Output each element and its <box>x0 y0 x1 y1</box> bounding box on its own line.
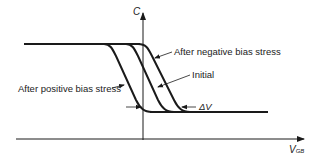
x-axis-label-main: V <box>289 144 296 155</box>
label-initial: Initial <box>192 70 214 80</box>
label-positive-stress: After positive bias stress <box>18 84 121 94</box>
x-axis-label-sub: GB <box>296 148 305 154</box>
x-axis-label: VGB <box>289 145 304 155</box>
delta-v-label: ΔV <box>199 102 212 112</box>
label-negative-stress: After negative bias stress <box>174 47 281 57</box>
curve-positive-stress <box>104 44 152 112</box>
leader-negative <box>155 52 172 58</box>
y-axis-label: C <box>133 7 140 17</box>
